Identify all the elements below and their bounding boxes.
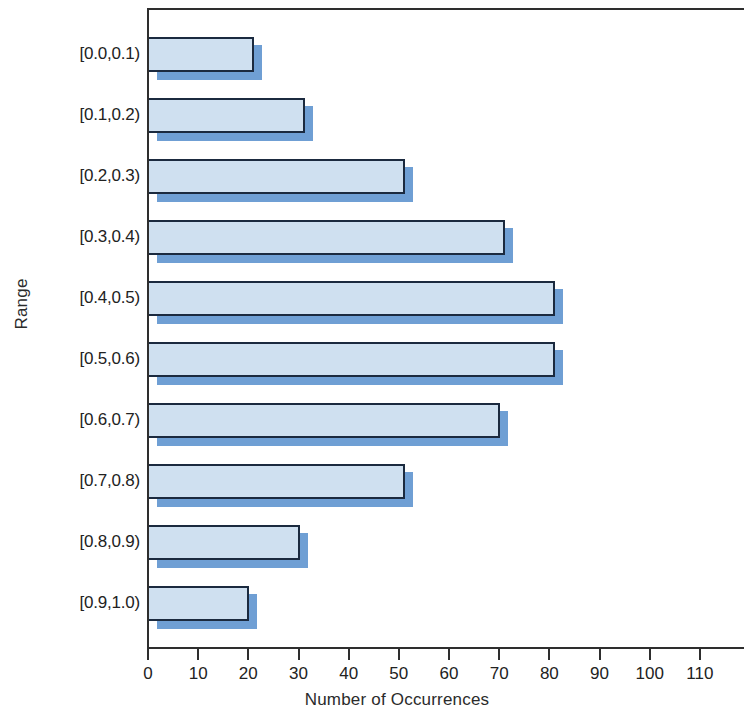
bar-body <box>149 464 405 499</box>
x-axis-tick <box>699 649 701 660</box>
bar-body <box>149 281 555 316</box>
bar-chart: Range [0.0,0.1)[0.1,0.2)[0.2,0.3)[0.3,0.… <box>0 0 744 719</box>
x-axis-tick <box>599 649 601 660</box>
x-axis-tick <box>398 649 400 660</box>
x-axis-line <box>147 647 744 649</box>
y-axis-tick-label: [0.1,0.2) <box>20 105 140 125</box>
y-axis-tick-label: [0.5,0.6) <box>20 349 140 369</box>
y-axis-tick-label: [0.8,0.9) <box>20 532 140 552</box>
x-axis-tick-label: 110 <box>670 664 730 684</box>
bar-body <box>149 525 300 560</box>
bar-body <box>149 586 249 621</box>
plot-area: 0102030405060708090100110 <box>147 8 744 649</box>
bar-body <box>149 342 555 377</box>
y-axis-tick-label: [0.6,0.7) <box>20 410 140 430</box>
y-axis-tick-label: [0.4,0.5) <box>20 288 140 308</box>
bar-body <box>149 98 305 133</box>
x-axis-tick <box>498 649 500 660</box>
y-axis-tick-label: [0.0,0.1) <box>20 44 140 64</box>
plot-frame-top <box>147 8 744 10</box>
x-axis-tick <box>348 649 350 660</box>
x-axis-tick <box>298 649 300 660</box>
x-axis-tick <box>448 649 450 660</box>
x-axis-tick <box>147 649 149 660</box>
x-axis-title: Number of Occurrences <box>147 690 647 710</box>
bar-body <box>149 159 405 194</box>
y-axis-tick-label: [0.9,1.0) <box>20 593 140 613</box>
x-axis-tick <box>247 649 249 660</box>
bar-body <box>149 403 500 438</box>
x-axis-tick <box>548 649 550 660</box>
y-axis-tick-label: [0.3,0.4) <box>20 227 140 247</box>
y-axis-tick-label: [0.2,0.3) <box>20 166 140 186</box>
x-axis-tick <box>197 649 199 660</box>
bar-body <box>149 220 505 255</box>
y-axis-tick-label: [0.7,0.8) <box>20 471 140 491</box>
y-axis-tick-labels: [0.0,0.1)[0.1,0.2)[0.2,0.3)[0.3,0.4)[0.4… <box>0 0 140 719</box>
bar-body <box>149 37 254 72</box>
x-axis-tick <box>649 649 651 660</box>
